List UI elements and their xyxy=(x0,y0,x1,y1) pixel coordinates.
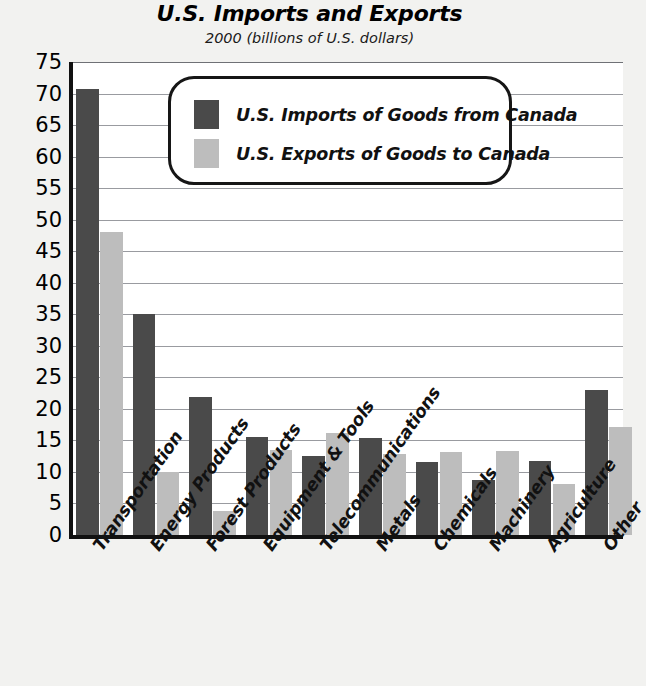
legend-label-exports: U.S. Exports of Goods to Canada xyxy=(236,144,550,164)
y-axis-tick-5: 5 xyxy=(49,493,62,514)
chart-title: U.S. Imports and Exports xyxy=(0,1,619,26)
y-axis-tick-70: 70 xyxy=(35,83,62,104)
chart-legend: U.S. Imports of Goods from Canada U.S. E… xyxy=(168,76,512,185)
legend-label-imports: U.S. Imports of Goods from Canada xyxy=(236,105,577,125)
y-axis: 757065605550454035302520151050 xyxy=(0,62,62,535)
chart-subtitle: 2000 (billions of U.S. dollars) xyxy=(0,30,619,46)
y-axis-tick-20: 20 xyxy=(35,398,62,419)
x-axis-labels: TransportationEnergy ProductsForest Prod… xyxy=(0,539,619,686)
y-axis-tick-15: 15 xyxy=(35,430,62,451)
bar-imports-transportation xyxy=(76,89,99,536)
y-axis-tick-55: 55 xyxy=(35,178,62,199)
y-axis-tick-25: 25 xyxy=(35,367,62,388)
bar-exports-transportation xyxy=(100,232,123,535)
y-axis-tick-40: 40 xyxy=(35,272,62,293)
legend-swatch-imports-icon xyxy=(194,100,219,129)
legend-swatch-exports-icon xyxy=(194,139,219,168)
y-axis-tick-50: 50 xyxy=(35,209,62,230)
y-axis-tick-75: 75 xyxy=(35,52,62,73)
legend-item-imports: U.S. Imports of Goods from Canada xyxy=(194,100,577,129)
y-axis-tick-30: 30 xyxy=(35,335,62,356)
y-axis-tick-35: 35 xyxy=(35,304,62,325)
legend-item-exports: U.S. Exports of Goods to Canada xyxy=(194,139,550,168)
y-axis-tick-65: 65 xyxy=(35,115,62,136)
y-axis-tick-60: 60 xyxy=(35,146,62,167)
y-axis-tick-45: 45 xyxy=(35,241,62,262)
y-axis-tick-10: 10 xyxy=(35,461,62,482)
